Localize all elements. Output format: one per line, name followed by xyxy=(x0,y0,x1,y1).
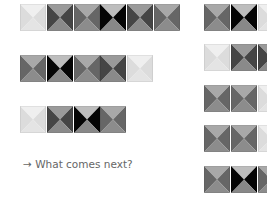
hourglass-tile-dark xyxy=(100,55,126,82)
hourglass-tile-medium xyxy=(204,4,230,31)
option-row-4[interactable] xyxy=(204,125,267,152)
sequence-row-2 xyxy=(20,55,154,82)
hourglass-tile-medium xyxy=(74,4,100,31)
hourglass-tile-light xyxy=(258,85,267,112)
hourglass-tile-dark xyxy=(231,44,257,71)
hourglass-tile-light xyxy=(204,44,230,71)
hourglass-tile-medium xyxy=(231,125,257,152)
hourglass-tile-light xyxy=(258,125,267,152)
hourglass-tile-dark xyxy=(47,106,73,133)
option-row-2[interactable] xyxy=(204,44,267,71)
hourglass-tile-black xyxy=(231,4,257,31)
hourglass-tile-medium xyxy=(204,166,230,193)
hourglass-tile-medium xyxy=(154,4,180,31)
sequence-row-3 xyxy=(20,106,127,133)
hourglass-tile-black xyxy=(231,166,257,193)
prompt-text: What comes next? xyxy=(35,158,132,170)
hourglass-tile-light xyxy=(258,4,267,31)
sequence-row-1 xyxy=(20,4,181,31)
hourglass-tile-black xyxy=(74,106,100,133)
hourglass-tile-dark xyxy=(127,4,153,31)
hourglass-tile-dark xyxy=(258,44,267,71)
hourglass-tile-medium xyxy=(20,55,46,82)
option-row-1[interactable] xyxy=(204,4,267,31)
hourglass-tile-medium xyxy=(100,106,126,133)
hourglass-tile-black xyxy=(100,4,126,31)
hourglass-tile-medium xyxy=(258,166,267,193)
hourglass-tile-dark xyxy=(47,4,73,31)
hourglass-tile-medium xyxy=(204,125,230,152)
hourglass-tile-light xyxy=(20,106,46,133)
hourglass-tile-light xyxy=(127,55,153,82)
prompt: → What comes next? xyxy=(23,158,133,170)
hourglass-tile-black xyxy=(47,55,73,82)
hourglass-tile-medium xyxy=(204,85,230,112)
hourglass-tile-medium xyxy=(231,85,257,112)
hourglass-tile-medium xyxy=(74,55,100,82)
option-row-3[interactable] xyxy=(204,85,267,112)
hourglass-tile-light xyxy=(20,4,46,31)
option-row-5[interactable] xyxy=(204,166,267,193)
arrow-right-icon: → xyxy=(23,158,32,170)
